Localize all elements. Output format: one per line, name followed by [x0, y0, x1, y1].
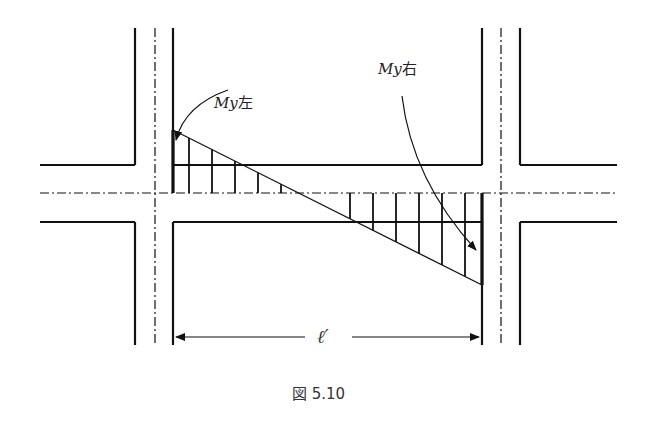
- moment-slope-line: [173, 130, 482, 285]
- left-moment-annotation: My左: [176, 90, 253, 140]
- span-label: ℓ′: [317, 326, 329, 347]
- right-moment-label: My右: [377, 60, 417, 78]
- left-column: [135, 28, 173, 345]
- hatching-right: [350, 193, 465, 277]
- figure-caption: 図 5.10: [292, 385, 345, 403]
- span-dimension: ℓ′: [176, 326, 479, 347]
- moment-diagram: [173, 130, 482, 285]
- moment-diagram-figure: My左 My右 ℓ′ 図 5.10: [0, 0, 648, 426]
- left-moment-label: My左: [213, 94, 253, 112]
